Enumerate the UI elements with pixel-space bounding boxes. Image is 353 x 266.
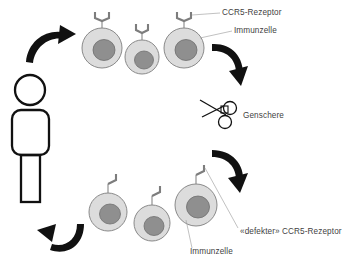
cell-nucleus: [93, 40, 115, 61]
cell-nucleus: [100, 204, 121, 224]
top-cell-1: [82, 12, 122, 68]
arrow-bottom-left: [37, 224, 84, 252]
cell-nucleus: [144, 217, 164, 236]
arrow-bottom-right: [212, 150, 248, 193]
patient-figure: [12, 75, 49, 202]
cell-nucleus: [135, 51, 154, 69]
label-gene-scissors: Genschere: [243, 111, 284, 120]
arrow-top-right: [212, 44, 248, 86]
arrow-top-left: [26, 25, 76, 63]
label-defective-ccr5-receptor: «defekter» CCR5-Rezeptor: [240, 227, 342, 236]
bottom-cell-3: [175, 165, 217, 226]
person-legs-icon: [21, 155, 40, 202]
label-immune-cell-top: Immunzelle: [234, 26, 277, 35]
person-head-icon: [15, 75, 45, 105]
label-ccr5-receptor: CCR5-Rezeptor: [222, 8, 282, 17]
leader-line-receptor-top: [192, 13, 220, 15]
crispr-ccr5-cycle-diagram: CCR5-Rezeptor Immunzelle Genschere: [0, 0, 353, 266]
cell-nucleus: [175, 40, 197, 61]
leader-line-immune-cell-top: [200, 31, 232, 38]
top-cell-3: [164, 12, 204, 68]
scissors-ring-lower: [219, 116, 232, 129]
bottom-cell-2: [134, 186, 170, 241]
bottom-cell-1: [89, 174, 127, 231]
person-torso-icon: [12, 110, 49, 155]
cell-nucleus: [187, 196, 210, 218]
top-cell-2: [125, 24, 159, 74]
label-immune-cell-bottom: Immunzelle: [190, 247, 233, 256]
gene-scissors-icon: [200, 100, 237, 129]
